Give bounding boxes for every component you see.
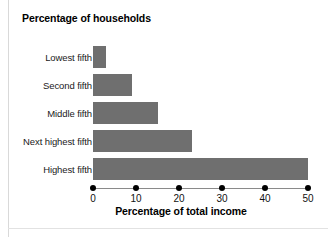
bar xyxy=(93,130,192,152)
x-axis-tick-label: 20 xyxy=(159,193,199,204)
bar xyxy=(93,74,132,96)
page-rule-bottom xyxy=(8,228,328,229)
bar xyxy=(93,102,158,124)
x-axis-tick-dot xyxy=(133,185,139,191)
category-label: Next highest fifth xyxy=(23,136,92,147)
x-axis-tick-label: 40 xyxy=(245,193,285,204)
bar-row: Lowest fifth xyxy=(0,46,332,68)
x-axis-line xyxy=(91,188,310,189)
category-label: Highest fifth xyxy=(43,164,92,175)
bar-row: Next highest fifth xyxy=(0,130,332,152)
category-label: Middle fifth xyxy=(47,108,92,119)
x-axis-tick-label: 0 xyxy=(73,193,113,204)
x-axis-tick-dot xyxy=(176,185,182,191)
x-axis-tick-dot xyxy=(262,185,268,191)
category-label: Lowest fifth xyxy=(45,52,92,63)
x-axis-tick-dot xyxy=(219,185,225,191)
category-label: Second fifth xyxy=(43,80,92,91)
bar-chart-figure: Percentage of households Lowest fifthSec… xyxy=(0,0,332,237)
bar-row: Middle fifth xyxy=(0,102,332,124)
chart-title: Percentage of households xyxy=(22,12,172,25)
plot-area: Lowest fifthSecond fifthMiddle fifthNext… xyxy=(0,46,332,188)
x-axis-tick-label: 50 xyxy=(288,193,328,204)
x-axis-tick-label: 10 xyxy=(116,193,156,204)
bar-row: Highest fifth xyxy=(0,158,332,180)
x-axis-tick-label: 30 xyxy=(202,193,242,204)
x-axis-tick-dot xyxy=(90,185,96,191)
bar xyxy=(93,158,308,180)
x-axis-title: Percentage of total income xyxy=(0,205,332,217)
bar-row: Second fifth xyxy=(0,74,332,96)
x-axis-tick-dot xyxy=(305,185,311,191)
bar xyxy=(93,46,106,68)
